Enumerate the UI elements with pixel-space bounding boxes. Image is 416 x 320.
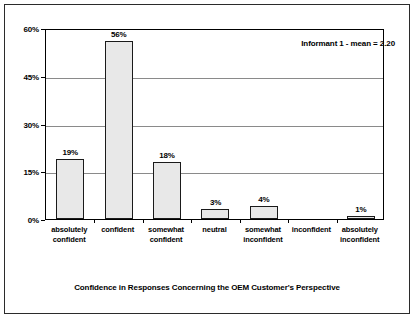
bar-slot: 56% — [94, 30, 142, 219]
bar-value-label: 3% — [210, 198, 221, 207]
bar-value-label: 19% — [62, 148, 77, 157]
x-axis-tick-mark — [288, 219, 289, 223]
x-axis-category-label: confident — [93, 225, 141, 235]
x-axis-tick-mark — [191, 219, 192, 223]
bar[interactable] — [201, 209, 229, 219]
bar-slot: 4% — [240, 30, 288, 219]
bar-series: 19%56%18%3%4%1% — [46, 30, 383, 219]
bar[interactable] — [347, 216, 375, 219]
x-axis-title: Confidence in Responses Concerning the O… — [5, 283, 409, 292]
bar-slot: 19% — [46, 30, 94, 219]
y-axis-tick-mark — [41, 220, 45, 221]
bar-value-label: 18% — [159, 151, 174, 160]
x-axis-category-label: somewhatinconfident — [239, 225, 287, 244]
category-label-line: absolutely — [45, 225, 93, 235]
category-label-line: inconfident — [336, 235, 384, 245]
category-label-line: somewhat — [142, 225, 190, 235]
x-axis-tick-mark — [143, 219, 144, 223]
x-axis-tick-mark — [337, 219, 338, 223]
y-axis-tick-label: 60% — [5, 25, 39, 34]
bar-value-label: 4% — [258, 195, 269, 204]
category-label-line: inconfident — [287, 225, 335, 235]
chart-frame: 0%15%30%45%60% 19%56%18%3%4%1% Informant… — [4, 4, 410, 314]
bar-slot: 1% — [337, 30, 385, 219]
x-axis-category-labels: absolutelyconfidentconfidentsomewhatconf… — [45, 225, 384, 259]
x-axis-tick-mark — [240, 219, 241, 223]
bar-value-label: 56% — [111, 30, 126, 39]
x-axis-category-label: somewhatconfident — [142, 225, 190, 244]
y-axis-tick-label: 0% — [5, 216, 39, 225]
category-label-line: confident — [93, 225, 141, 235]
category-label-line: neutral — [190, 225, 238, 235]
category-label-line: somewhat — [239, 225, 287, 235]
bar-slot: 3% — [191, 30, 239, 219]
plot-area: 19%56%18%3%4%1% — [45, 29, 384, 220]
chart-annotation: Informant 1 - mean = 2.20 — [301, 39, 395, 48]
category-label-line: confident — [142, 235, 190, 245]
bar[interactable] — [56, 159, 84, 219]
bar-slot — [288, 30, 336, 219]
x-axis-category-label: absolutelyinconfident — [336, 225, 384, 244]
category-label-line: inconfident — [239, 235, 287, 245]
category-label-line: absolutely — [336, 225, 384, 235]
x-axis-category-label: inconfident — [287, 225, 335, 235]
y-axis-tick-label: 15% — [5, 168, 39, 177]
x-axis-category-label: neutral — [190, 225, 238, 235]
bar-value-label: 1% — [355, 205, 366, 214]
bar[interactable] — [105, 41, 133, 219]
bar-slot: 18% — [143, 30, 191, 219]
x-axis-tick-mark — [94, 219, 95, 223]
bar[interactable] — [153, 162, 181, 219]
bar[interactable] — [250, 206, 278, 219]
x-axis-category-label: absolutelyconfident — [45, 225, 93, 244]
y-axis-tick-label: 30% — [5, 120, 39, 129]
y-axis-tick-label: 45% — [5, 72, 39, 81]
category-label-line: confident — [45, 235, 93, 245]
